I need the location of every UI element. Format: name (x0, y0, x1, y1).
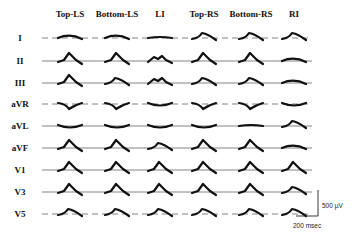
waveform-iii-li (148, 78, 172, 85)
waveform-v5-ri (282, 209, 306, 216)
row-labels: IIIIIIaVRaVLaVFV1V3V5 (11, 33, 29, 219)
waveform-v3-top-ls (58, 184, 82, 195)
column-headers: Top-LSBottom-LSLITop-RSBottom-RSRI (56, 9, 300, 19)
column-header-bottom-ls: Bottom-LS (96, 9, 139, 19)
waveform-iii-top-ls (58, 75, 82, 86)
column-header-top-ls: Top-LS (56, 9, 85, 19)
time-scale-label: 200 msec (293, 222, 322, 229)
waveform-avf-top-ls (58, 140, 82, 151)
waveform-v3-ri (282, 187, 306, 194)
waveform-i-li (148, 37, 172, 38)
waveform-avr-top-ls (58, 103, 82, 109)
waveform-v1-bottom-ls (105, 162, 129, 173)
waveform-v1-bottom-rs (239, 162, 263, 173)
waveform-v5-top-rs (192, 209, 216, 216)
waveform-v1-li (148, 162, 172, 173)
waveform-avr-li (148, 103, 172, 106)
waveform-i-ri (282, 33, 306, 40)
waveform-v5-bottom-ls (105, 209, 129, 216)
ecg-waveform-grid: Top-LSBottom-LSLITop-RSBottom-RSRI IIIII… (0, 0, 361, 238)
waveform-iii-bottom-rs (239, 78, 263, 85)
waveform-ii-bottom-ls (105, 53, 129, 64)
waveform-i-top-rs (192, 33, 216, 40)
row-label-ii: II (16, 56, 24, 66)
waveform-avl-bottom-rs (239, 125, 263, 126)
row-label-iii: III (15, 78, 26, 88)
waveform-v3-li (148, 184, 172, 195)
waveform-avr-bottom-rs (239, 103, 263, 109)
waveform-ii-top-rs (192, 53, 216, 64)
column-header-top-rs: Top-RS (189, 9, 218, 19)
waveform-iii-ri (282, 81, 306, 84)
row-label-avr: aVR (11, 99, 29, 109)
waveform-i-bottom-rs (239, 33, 263, 40)
waveform-avf-li (148, 143, 172, 150)
waveform-avl-ri (282, 121, 306, 128)
column-header-bottom-rs: Bottom-RS (230, 9, 273, 19)
waveform-iii-top-rs (192, 78, 216, 85)
column-header-ri: RI (289, 9, 299, 19)
amplitude-scale-label: 500 µV (322, 202, 343, 210)
waveform-iii-bottom-ls (105, 78, 129, 85)
waveform-v1-top-ls (58, 162, 82, 173)
waveform-ii-ri (282, 59, 306, 62)
waveform-avf-bottom-ls (105, 140, 129, 151)
waveform-ii-li (148, 56, 172, 63)
column-header-li: LI (155, 9, 165, 19)
waveform-v1-top-rs (192, 162, 216, 173)
row-label-i: I (18, 33, 22, 43)
row-label-avf: aVF (12, 143, 29, 153)
waveform-avf-ri (282, 146, 306, 149)
waveform-avf-bottom-rs (239, 140, 263, 151)
waveform-ii-bottom-rs (239, 53, 263, 64)
row-label-v5: V5 (15, 209, 26, 219)
waveform-ii-top-ls (58, 53, 82, 64)
row-label-avl: aVL (11, 121, 28, 131)
row-label-v3: V3 (15, 187, 26, 197)
waveform-v3-top-rs (192, 184, 216, 195)
scale-bar: 500 µV 200 msec (293, 190, 343, 229)
waveform-i-bottom-ls (105, 36, 129, 39)
waveform-v3-bottom-ls (105, 184, 129, 195)
waveform-v3-bottom-rs (239, 184, 263, 195)
waveform-i-top-ls (58, 36, 82, 39)
waveform-v5-top-ls (58, 209, 82, 216)
waveform-v5-bottom-rs (239, 209, 263, 216)
row-label-v1: V1 (15, 165, 26, 175)
waveform-v5-li (148, 209, 172, 216)
waveform-v1-ri (282, 162, 306, 173)
waveform-avf-top-rs (192, 140, 216, 151)
waveforms (58, 33, 306, 216)
